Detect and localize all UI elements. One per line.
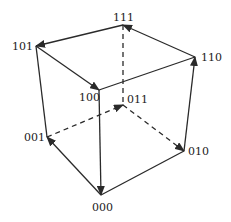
vertex-label-011: 011 [127,94,148,105]
vertex-label-111: 111 [113,12,134,23]
vertex-label-010: 010 [188,146,209,157]
edge-010-110 [184,57,195,151]
edge-110-111 [123,25,195,57]
cube-edges [0,0,231,222]
vertex-label-001: 001 [24,132,45,143]
vertex-label-000: 000 [92,202,113,213]
edge-000-010 [101,151,184,195]
edge-100-110 [99,57,195,90]
edge-101-001 [36,46,47,137]
vertex-label-101: 101 [12,41,33,52]
vertex-label-110: 110 [201,52,222,63]
edge-100-000 [99,90,101,195]
edge-001-011 [47,105,123,137]
edge-011-010 [123,105,184,151]
edge-111-101 [36,25,123,46]
edge-101-100 [36,46,99,90]
vertex-label-100: 100 [79,92,100,103]
binary-cube-diagram: 111101110100011001010000 [0,0,231,222]
edge-000-001 [47,137,101,195]
